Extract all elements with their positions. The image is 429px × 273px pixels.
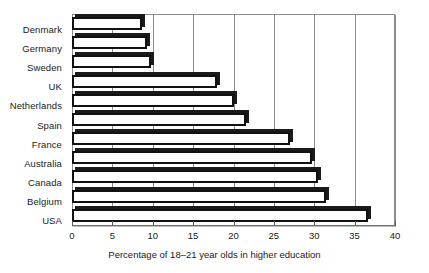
bar-face [72,190,326,203]
bar-australia [72,151,312,164]
category-axis-labels: DenmarkGermanySwedenUKNetherlandsSpainFr… [0,14,66,225]
x-tick-label-10: 10 [138,230,168,241]
category-label-canada: Canada [0,178,62,188]
bar-face [72,55,151,68]
category-label-australia: Australia [0,159,62,169]
x-tick-label-25: 25 [259,230,289,241]
bar-denmark [72,17,142,30]
x-tick-label-0: 0 [57,230,87,241]
bar-face [72,75,217,88]
bar-face [72,132,290,145]
tick-mark-30 [314,221,315,226]
tick-mark-40 [395,221,396,226]
category-label-sweden: Sweden [0,63,62,73]
category-label-usa: USA [0,216,62,226]
bar-face [72,17,142,30]
bars-layer [72,14,395,225]
category-label-spain: Spain [0,121,62,131]
x-tick-label-15: 15 [178,230,208,241]
x-axis-title: Percentage of 18–21 year olds in higher … [0,249,429,261]
bar-face [72,113,246,126]
bar-france [72,132,290,145]
tick-mark-20 [234,221,235,226]
category-label-netherlands: Netherlands [0,101,62,111]
tick-mark-10 [153,221,154,226]
bar-sweden [72,55,151,68]
tick-mark-25 [274,221,275,226]
bar-netherlands [72,94,234,107]
category-label-france: France [0,140,62,150]
gridline-40 [395,15,396,225]
bar-canada [72,170,318,183]
bar-usa [72,209,368,222]
x-tick-label-35: 35 [340,230,370,241]
bar-belgium [72,190,326,203]
bar-germany [72,36,147,49]
category-label-germany: Germany [0,44,62,54]
tick-mark-5 [112,221,113,226]
bar-face [72,170,318,183]
bar-uk [72,75,217,88]
x-tick-label-5: 5 [97,230,127,241]
tick-mark-0 [72,221,73,226]
category-label-denmark: Denmark [0,25,62,35]
category-label-belgium: Belgium [0,197,62,207]
bar-face [72,36,147,49]
tick-mark-35 [355,221,356,226]
x-tick-label-20: 20 [219,230,249,241]
x-tick-label-40: 40 [380,230,410,241]
bar-face [72,94,234,107]
bar-face [72,209,368,222]
x-tick-label-30: 30 [299,230,329,241]
tick-mark-15 [193,221,194,226]
bar-face [72,151,312,164]
bar-chart: DenmarkGermanySwedenUKNetherlandsSpainFr… [0,0,429,273]
category-label-uk: UK [0,82,62,92]
bar-spain [72,113,246,126]
